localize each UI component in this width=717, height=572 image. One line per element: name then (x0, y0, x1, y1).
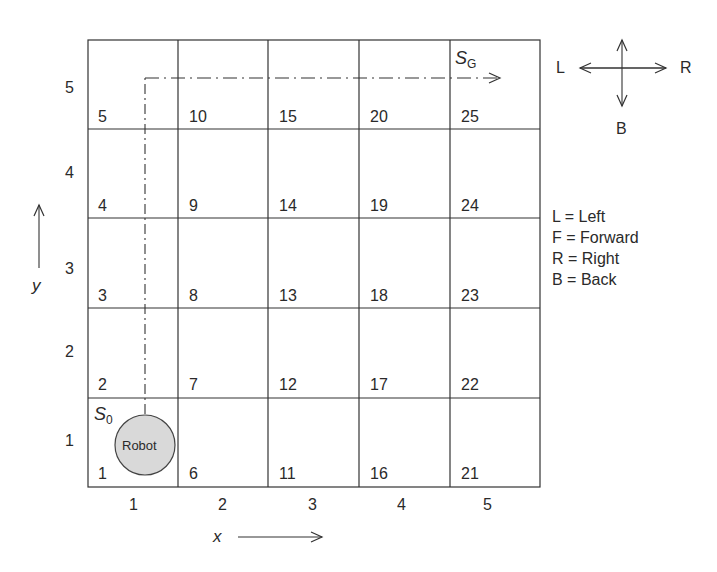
cell-number: 16 (370, 466, 388, 482)
compass-right-label: R (680, 60, 692, 76)
compass-left-label: L (556, 60, 565, 76)
cell-number: 22 (461, 377, 479, 393)
y-tick: 4 (65, 165, 74, 181)
cell-number: 18 (370, 288, 388, 304)
legend-item-back: B = Back (552, 269, 639, 290)
cell-number: 6 (189, 466, 198, 482)
robot-label: Robot (122, 439, 157, 452)
cell-number: 20 (370, 109, 388, 125)
goal-state-label: SG (455, 50, 476, 72)
legend-item-forward: F = Forward (552, 227, 639, 248)
legend-item-left: L = Left (552, 206, 639, 227)
cell-number: 11 (279, 466, 296, 482)
legend-item-right: R = Right (552, 248, 639, 269)
cell-number: 9 (189, 198, 198, 214)
cell-number: 21 (461, 466, 479, 482)
goal-subscript: G (467, 57, 476, 71)
cell-number: 17 (370, 377, 388, 393)
cell-number: 13 (279, 288, 297, 304)
cell-number: 15 (279, 109, 297, 125)
y-axis-label: y (32, 278, 41, 294)
cell-number: 23 (461, 288, 479, 304)
x-tick: 4 (397, 497, 406, 513)
cell-number: 10 (189, 109, 207, 125)
goal-symbol: S (455, 48, 467, 68)
cell-number: 3 (98, 288, 107, 304)
cell-number: 5 (98, 109, 107, 125)
cell-number: 1 (98, 466, 107, 482)
start-state-label: S0 (94, 406, 113, 428)
compass-back-label: B (616, 121, 627, 137)
cell-number: 19 (370, 198, 388, 214)
cell-number: 25 (461, 109, 479, 125)
cell-number: 4 (98, 198, 107, 214)
y-tick: 5 (65, 80, 74, 96)
x-tick: 2 (218, 497, 227, 513)
start-subscript: 0 (106, 413, 113, 427)
y-tick: 1 (65, 433, 74, 449)
x-axis-label: x (213, 529, 222, 545)
x-tick: 1 (129, 497, 138, 513)
cell-number: 24 (461, 198, 479, 214)
direction-legend: L = Left F = Forward R = Right B = Back (552, 206, 639, 290)
start-symbol: S (94, 404, 106, 424)
cell-number: 14 (279, 198, 297, 214)
cell-number: 7 (189, 377, 198, 393)
compass-icon (580, 40, 666, 106)
x-tick: 5 (483, 497, 492, 513)
cell-number: 8 (189, 288, 198, 304)
cell-number: 2 (98, 377, 107, 393)
cell-number: 12 (279, 377, 297, 393)
y-tick: 2 (65, 344, 74, 360)
x-tick: 3 (308, 497, 317, 513)
y-tick: 3 (65, 261, 74, 277)
